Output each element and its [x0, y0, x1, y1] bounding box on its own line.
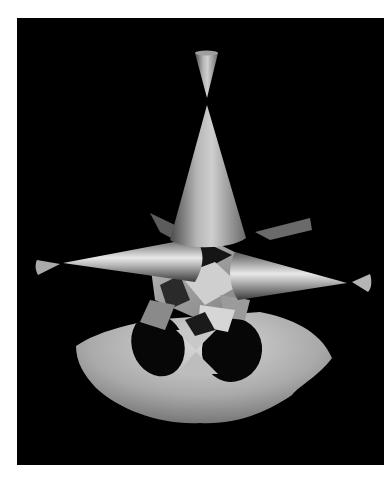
right-spike-cone	[230, 252, 371, 300]
back-right-spike	[255, 218, 312, 240]
main-vertical-cone	[170, 105, 246, 247]
render-frame: Grey shaded 3D surface on black backgrou…	[17, 18, 384, 465]
algebraic-surface-render	[17, 18, 384, 465]
top-double-cone	[195, 51, 218, 99]
left-spike-cone	[36, 238, 203, 282]
